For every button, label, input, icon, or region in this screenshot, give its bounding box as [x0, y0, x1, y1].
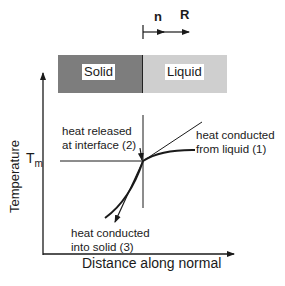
annotation-heat-released-line2: at interface (2) — [62, 138, 136, 152]
x-axis-label: Distance along normal — [82, 255, 221, 271]
annotation-heat-from-liquid: heat conducted from liquid (1) — [196, 128, 275, 156]
heat-released-arrow — [140, 148, 142, 160]
annotation-heat-released: heat released at interface (2) — [62, 124, 136, 152]
annotation-solid-line2: into solid (3) — [71, 240, 150, 254]
tm-subscript: m — [35, 158, 43, 169]
y-axis-label: Temperature — [7, 140, 22, 213]
annotation-heat-released-line1: heat released — [62, 124, 136, 138]
tm-symbol: T — [26, 150, 35, 166]
temperature-profile-curve — [105, 150, 192, 218]
annotation-liquid-line2: from liquid (1) — [196, 142, 275, 156]
annotation-solid-line1: heat conducted — [71, 226, 150, 240]
annotation-heat-into-solid: heat conducted into solid (3) — [71, 226, 150, 254]
annotation-liquid-line1: heat conducted — [196, 128, 275, 142]
liquid-gradient-line — [143, 122, 202, 161]
melting-temp-label: Tm — [26, 150, 43, 169]
solid-gradient-arrow — [115, 161, 143, 222]
